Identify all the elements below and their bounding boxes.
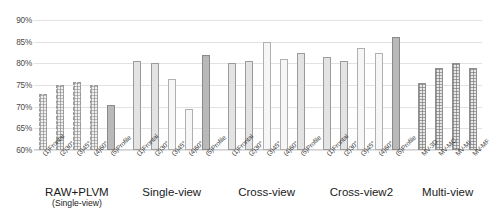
bar [39,94,47,150]
y-axis-tick-label: 70% [16,102,32,111]
bar [280,59,288,150]
y-axis-tick-label: 85% [16,37,32,46]
x-axis-group-titles: RAW+PLVM(Single-view)Single-viewCross-vi… [34,186,482,220]
bar [202,55,210,150]
bar [435,68,443,150]
y-axis-tick-label: 90% [16,16,32,25]
group-subtitle-text: (Single-view) [34,198,120,208]
bar [90,85,98,150]
bar [133,61,141,150]
bar-group [129,20,215,150]
group-title-text: Cross-view [238,186,295,198]
bar [357,48,365,150]
y-axis-tick-label: 65% [16,124,32,133]
bar [297,53,305,151]
group-title-text: Cross-view2 [330,186,393,198]
group-title: RAW+PLVM(Single-view) [34,186,120,208]
group-title: Cross-view [224,186,310,198]
bar [392,37,400,150]
y-axis-tick-label: 75% [16,81,32,90]
y-axis-tick-label: 80% [16,59,32,68]
bar [228,63,236,150]
bar-group [224,20,310,150]
bar-group [34,20,120,150]
group-title: Multi-view [413,186,482,198]
group-title-text: Single-view [142,186,201,198]
group-title: Cross-view2 [319,186,405,198]
group-title-text: RAW+PLVM [45,186,109,198]
bar [323,57,331,150]
y-axis-tick-label: 60% [16,146,32,155]
bar-group [319,20,405,150]
y-axis: 60%65%70%75%80%85%90% [0,20,34,150]
plot-area [34,20,482,150]
bar-group [413,20,482,150]
bar [418,83,426,150]
group-title: Single-view [129,186,215,198]
bar [469,68,477,150]
bar [168,79,176,151]
bar [452,63,460,150]
bar [375,53,383,151]
bar [263,42,271,150]
x-axis-tick-labels: (1)Frontal(2)30°(3)45°(4)60°(5)Profile(1… [34,150,482,190]
group-title-text: Multi-view [422,186,473,198]
bar [73,82,81,150]
